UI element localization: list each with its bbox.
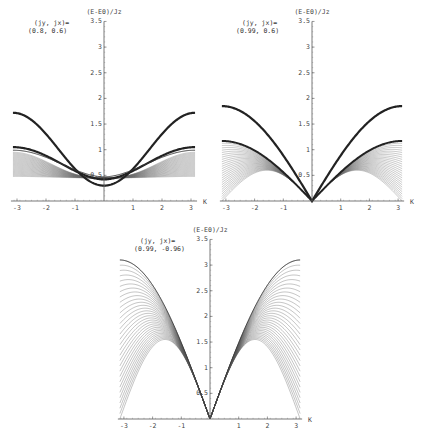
x-tick-label: -2: [149, 422, 157, 430]
parameter-annotation: (0.8, 0.6): [28, 27, 67, 35]
plot-top-left: -3-2-1123K0.511.522.533.5(E-E0)/Jz(jy, j…: [11, 8, 207, 212]
y-axis-label: (E-E0)/Jz: [86, 8, 121, 16]
x-tick-label: -2: [42, 204, 50, 212]
y-tick-label: 0.5: [298, 171, 310, 179]
y-tick-label: 1.5: [90, 120, 102, 128]
x-tick-label: 2: [265, 422, 269, 430]
x-tick-label: 1: [237, 422, 241, 430]
parameter-annotation: (0.99, -0.96): [134, 245, 185, 253]
x-tick-label: 2: [367, 204, 371, 212]
y-tick-label: 3: [98, 43, 102, 51]
parameter-annotation: (jy, jx)=: [242, 19, 277, 27]
x-tick-label: -1: [71, 204, 79, 212]
y-tick-label: 1.5: [298, 120, 310, 128]
x-axis-label: K: [308, 416, 312, 424]
x-tick-label: 3: [189, 204, 193, 212]
y-tick-label: 3: [306, 43, 310, 51]
y-tick-label: 1: [204, 364, 208, 372]
y-tick-label: 3: [204, 261, 208, 269]
parameter-annotation: (jy, jx)=: [34, 19, 69, 27]
y-tick-label: 0.5: [196, 389, 208, 397]
x-tick-label: -2: [251, 204, 259, 212]
y-tick-label: 2: [204, 312, 208, 320]
y-tick-label: 2.5: [196, 287, 208, 295]
x-tick-label: -3: [13, 204, 21, 212]
y-tick-label: 3.5: [196, 235, 208, 243]
x-tick-label: -3: [120, 422, 128, 430]
y-tick-label: 1: [98, 146, 102, 154]
y-tick-label: 2: [98, 94, 102, 102]
plot-bottom: -3-2-1123K0.511.522.533.5(E-E0)/Jz(jy, j…: [118, 226, 312, 430]
y-tick-label: 3.5: [298, 17, 310, 25]
x-tick-label: 3: [294, 422, 298, 430]
plot-top-right: -3-2-1123K0.511.522.533.5(E-E0)/Jz(jy, j…: [220, 8, 414, 212]
x-tick-label: -1: [177, 422, 185, 430]
y-tick-label: 2: [306, 94, 310, 102]
y-tick-label: 2.5: [298, 69, 310, 77]
y-tick-label: 1.5: [196, 338, 208, 346]
y-tick-label: 3.5: [90, 17, 102, 25]
x-tick-label: 1: [339, 204, 343, 212]
x-axis-label: K: [203, 198, 207, 206]
x-tick-label: 2: [160, 204, 164, 212]
parameter-annotation: (jy, jx)=: [140, 237, 175, 245]
x-tick-label: -1: [279, 204, 287, 212]
y-tick-label: 2.5: [90, 69, 102, 77]
x-tick-label: 1: [131, 204, 135, 212]
y-axis-label: (E-E0)/Jz: [192, 226, 227, 234]
x-tick-label: 3: [396, 204, 400, 212]
parameter-annotation: (0.99, 0.6): [236, 27, 279, 35]
y-axis-label: (E-E0)/Jz: [294, 8, 329, 16]
dispersion-figure: -3-2-1123K0.511.522.533.5(E-E0)/Jz(jy, j…: [0, 0, 425, 438]
y-tick-label: 0.5: [90, 171, 102, 179]
y-tick-label: 1: [306, 146, 310, 154]
x-axis-label: K: [410, 198, 414, 206]
x-tick-label: -3: [222, 204, 230, 212]
